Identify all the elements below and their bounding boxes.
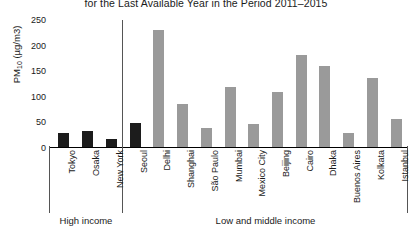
bar-osaka[interactable]	[82, 131, 93, 147]
bar-beijing[interactable]	[272, 92, 283, 147]
category-slot: Shanghai	[171, 150, 195, 208]
bar-series	[52, 19, 408, 147]
group-left-edge	[49, 146, 50, 213]
category-slot: Tokyo	[52, 150, 76, 208]
bar-slot	[147, 19, 171, 147]
category-slot: Istanbul	[384, 150, 408, 208]
group-caption-low-and-middle-income: Low and middle income	[123, 215, 408, 226]
bar-slot	[171, 19, 195, 147]
category-slot: São Paulo	[194, 150, 218, 208]
bar-seoul[interactable]	[130, 123, 141, 147]
bar-mexico-city[interactable]	[248, 124, 259, 147]
bar-new-york[interactable]	[106, 139, 117, 147]
category-slot: Dhaka	[313, 150, 337, 208]
bar-slot	[242, 19, 266, 147]
bar-slot	[313, 19, 337, 147]
category-slot: Beijing	[266, 150, 290, 208]
bar-slot	[289, 19, 313, 147]
category-slot: Delhi	[147, 150, 171, 208]
bar-slot	[99, 19, 123, 147]
y-axis-tick-250: 250	[22, 16, 46, 25]
x-axis-line	[49, 147, 408, 148]
category-slot: Mexico City	[242, 150, 266, 208]
bar-slot	[361, 19, 385, 147]
bar-cairo[interactable]	[296, 55, 307, 147]
x-axis-category-labels: TokyoOsakaNew YorkSeoulDelhiShanghaiSão …	[52, 150, 408, 208]
y-axis-tick-150: 150	[22, 67, 46, 76]
bar-slot	[337, 19, 361, 147]
bar-dhaka[interactable]	[319, 66, 330, 147]
category-slot: New York	[99, 150, 123, 208]
bar-slot	[123, 19, 147, 147]
bar-slot	[194, 19, 218, 147]
bar-slot	[76, 19, 100, 147]
y-axis-tick-100: 100	[22, 92, 46, 101]
bar-delhi[interactable]	[153, 30, 164, 147]
bar-slot	[266, 19, 290, 147]
category-slot: Seoul	[123, 150, 147, 208]
category-slot: Osaka	[76, 150, 100, 208]
y-axis-tick-200: 200	[22, 41, 46, 50]
bar-slot	[52, 19, 76, 147]
bar-buenos-aires[interactable]	[343, 133, 354, 147]
bar-slot	[384, 19, 408, 147]
bar-shanghai[interactable]	[177, 104, 188, 147]
bar-são-paulo[interactable]	[201, 128, 212, 147]
plot-area	[52, 20, 408, 148]
group-caption-high-income: High income	[49, 215, 123, 226]
category-slot: Buenos Aires	[337, 150, 361, 208]
bar-slot	[218, 19, 242, 147]
bar-mumbai[interactable]	[225, 87, 236, 147]
bar-kolkata[interactable]	[367, 78, 378, 147]
category-slot: Cairo	[289, 150, 313, 208]
bar-tokyo[interactable]	[58, 133, 69, 147]
category-slot: Kolkata	[361, 150, 385, 208]
y-axis-tick-50: 50	[22, 118, 46, 127]
x-axis-label-istanbul: Istanbul	[401, 150, 410, 182]
bar-chart: for the Last Available Year in the Perio…	[0, 0, 412, 246]
bar-istanbul[interactable]	[391, 119, 402, 147]
category-slot: Mumbai	[218, 150, 242, 208]
y-axis-tick-0: 0	[22, 144, 46, 153]
